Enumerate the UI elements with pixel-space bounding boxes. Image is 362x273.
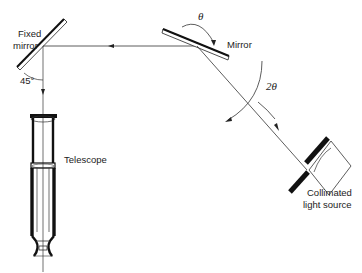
two-theta-label: 2θ — [266, 81, 277, 92]
diagram-canvas — [0, 0, 362, 273]
light-source-label-line1: Collimated — [307, 187, 352, 198]
theta-label: θ — [198, 11, 203, 22]
diagonal-beam — [197, 46, 307, 170]
angle-45-label: 45° — [20, 75, 34, 86]
horizontal-beam — [43, 44, 198, 48]
rotating-mirror — [162, 29, 229, 60]
fixed-mirror-label-line1: Fixed — [18, 28, 41, 39]
fixed-mirror-label-line2: mirror — [13, 40, 38, 51]
telescope — [30, 114, 57, 256]
mirror-label: Mirror — [227, 39, 252, 50]
light-source-label-line2: light source — [303, 199, 352, 210]
telescope-label: Telescope — [64, 154, 107, 165]
